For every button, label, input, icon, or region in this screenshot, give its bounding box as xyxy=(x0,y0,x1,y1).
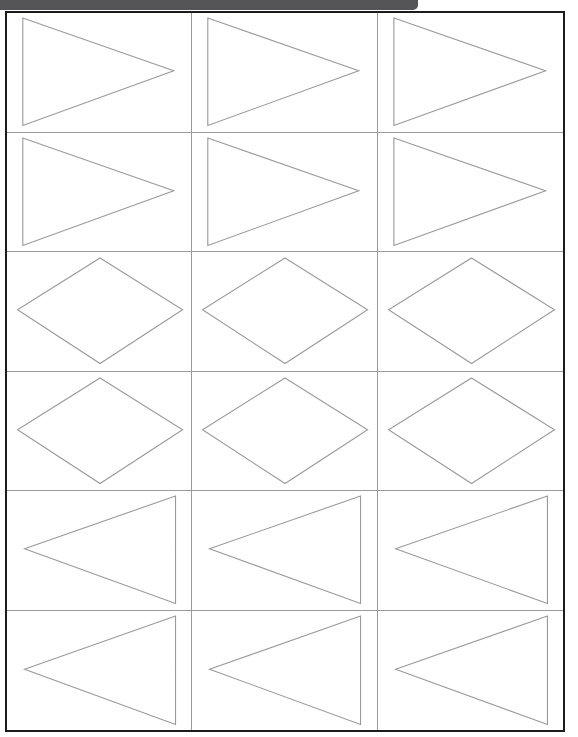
triangle-right-shape xyxy=(7,133,191,252)
triangle-left-shape xyxy=(7,491,191,610)
rhombus-shape xyxy=(192,372,376,491)
grid-cell[interactable] xyxy=(378,252,563,372)
triangle-left-outline xyxy=(395,496,547,604)
grid-cell[interactable] xyxy=(7,252,192,372)
triangle-right-shape xyxy=(7,13,191,132)
triangle-right-shape xyxy=(378,13,563,132)
rhombus-shape xyxy=(7,252,191,371)
grid-cell[interactable] xyxy=(192,491,377,611)
rhombus-shape xyxy=(192,252,376,371)
triangle-right-outline xyxy=(208,137,359,245)
triangle-left-shape xyxy=(378,491,563,610)
grid-cell[interactable] xyxy=(192,611,377,731)
window-title-bar xyxy=(0,0,418,10)
rhombus-outline xyxy=(388,258,554,364)
rhombus-shape xyxy=(378,372,563,491)
grid-cell[interactable] xyxy=(7,611,192,731)
triangle-left-outline xyxy=(210,496,361,604)
grid-cell[interactable] xyxy=(192,372,377,492)
rhombus-outline xyxy=(388,377,554,483)
grid-cell[interactable] xyxy=(7,491,192,611)
grid-cell[interactable] xyxy=(378,611,563,731)
grid-cell[interactable] xyxy=(7,13,192,133)
rhombus-shape xyxy=(7,372,191,491)
shape-sheet xyxy=(5,11,565,732)
triangle-left-outline xyxy=(210,616,361,724)
triangle-right-outline xyxy=(23,18,174,126)
triangle-right-shape xyxy=(192,133,376,252)
rhombus-outline xyxy=(18,258,183,364)
triangle-right-outline xyxy=(23,137,174,245)
rhombus-shape xyxy=(378,252,563,371)
triangle-left-shape xyxy=(192,491,376,610)
triangle-right-outline xyxy=(208,18,359,126)
shape-grid xyxy=(7,13,563,730)
grid-cell[interactable] xyxy=(378,372,563,492)
triangle-left-outline xyxy=(395,616,547,724)
grid-cell[interactable] xyxy=(7,372,192,492)
triangle-left-outline xyxy=(25,616,176,724)
rhombus-outline xyxy=(18,377,183,483)
rhombus-outline xyxy=(203,377,368,483)
grid-cell[interactable] xyxy=(378,13,563,133)
grid-cell[interactable] xyxy=(192,13,377,133)
grid-cell[interactable] xyxy=(378,491,563,611)
grid-cell[interactable] xyxy=(192,133,377,253)
triangle-left-shape xyxy=(378,611,563,731)
grid-cell[interactable] xyxy=(7,133,192,253)
triangle-right-shape xyxy=(378,133,563,252)
rhombus-outline xyxy=(203,258,368,364)
triangle-right-outline xyxy=(394,137,546,245)
grid-cell[interactable] xyxy=(192,252,377,372)
triangle-right-shape xyxy=(192,13,376,132)
triangle-left-shape xyxy=(7,611,191,731)
grid-cell[interactable] xyxy=(378,133,563,253)
triangle-right-outline xyxy=(394,18,546,126)
triangle-left-shape xyxy=(192,611,376,731)
triangle-left-outline xyxy=(25,496,176,604)
